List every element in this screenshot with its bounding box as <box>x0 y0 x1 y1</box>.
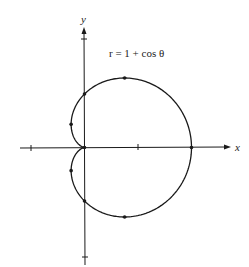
x-axis-arrow-icon <box>224 145 231 150</box>
cardioid-figure: x y r = 1 + cos θ <box>0 0 249 267</box>
y-axis-arrow-icon <box>82 27 87 34</box>
curve-point-marker <box>190 146 194 150</box>
y-axis: y <box>80 13 88 265</box>
y-axis-label: y <box>80 13 86 25</box>
equation-label: r = 1 + cos θ <box>109 47 164 59</box>
curve-point-marker <box>69 123 73 127</box>
curve-point-marker <box>83 146 87 150</box>
x-axis-label: x <box>234 141 240 153</box>
x-axis: x <box>20 141 240 153</box>
curve-point-marker <box>83 92 87 96</box>
curve-point-marker <box>123 76 127 80</box>
curve-point-marker <box>83 199 87 203</box>
curve-point-marker <box>123 215 127 219</box>
curve-point-marker <box>69 169 73 173</box>
